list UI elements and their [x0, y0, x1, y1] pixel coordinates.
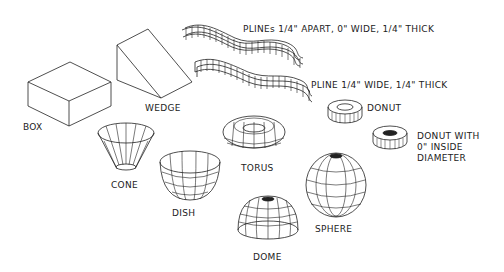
sphere-shape — [306, 153, 366, 217]
dish-shape — [160, 151, 220, 200]
pline-label: PLINE 1/4" WIDE, 1/4" THICK — [311, 80, 447, 91]
donut-solid-label: DONUT WITH 0" INSIDE DIAMETER — [417, 131, 480, 164]
box-shape — [28, 62, 111, 126]
torus-shape — [223, 116, 285, 148]
dome-label: DOME — [253, 252, 282, 263]
cone-shape — [98, 123, 154, 170]
cone-label: CONE — [111, 180, 138, 191]
donut-solid-shape — [373, 126, 407, 149]
dome-shape — [238, 196, 298, 239]
sphere-label: SPHERE — [315, 224, 352, 235]
box-label: BOX — [23, 122, 43, 133]
dish-label: DISH — [172, 208, 195, 219]
pline-shape — [195, 59, 312, 102]
donut-shape — [328, 100, 362, 123]
donut-label: DONUT — [367, 103, 401, 114]
torus-label: TORUS — [241, 163, 274, 174]
plines-label: PLINEs 1/4" APART, 0" WIDE, 1/4" THICK — [243, 24, 434, 35]
wedge-shape — [117, 29, 192, 98]
wedge-label: WEDGE — [145, 103, 181, 114]
